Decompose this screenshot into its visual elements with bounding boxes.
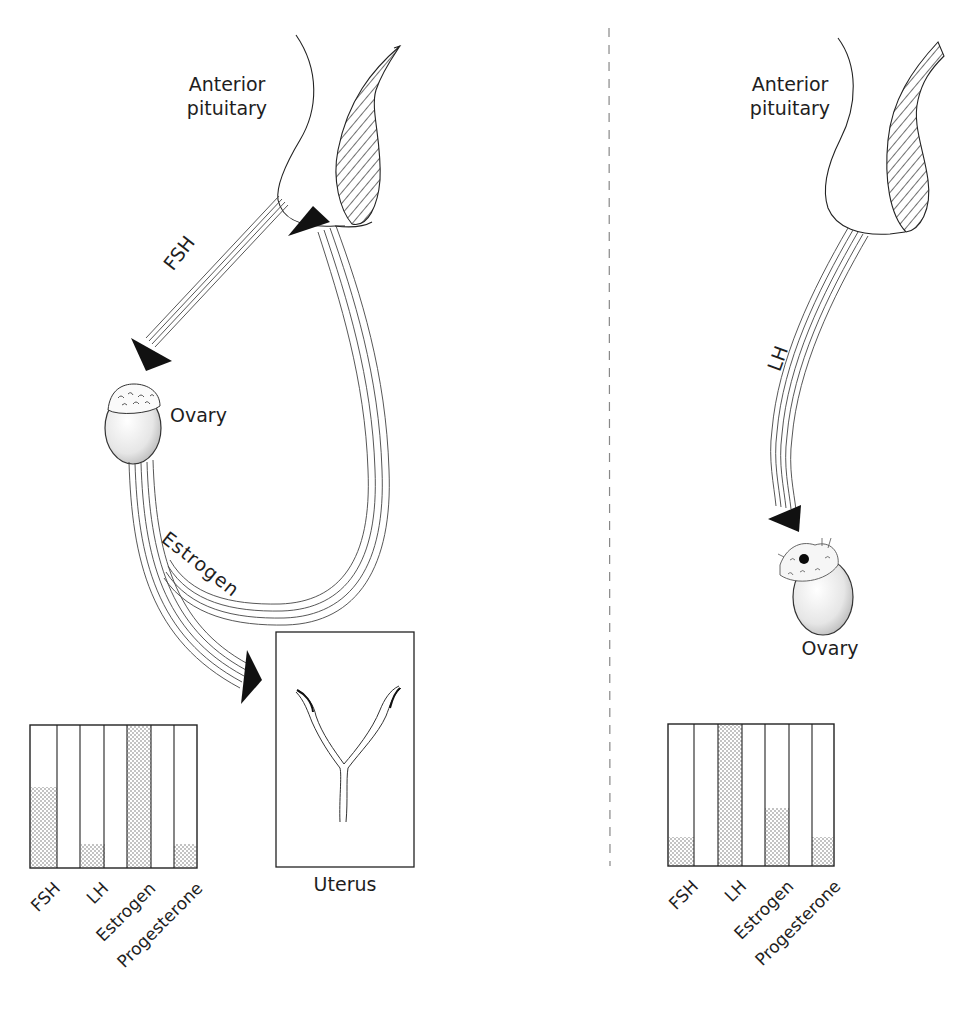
bar-fsh (669, 837, 694, 865)
anterior-pituitary-right (825, 38, 944, 234)
diagram-canvas: Anterior pituitary FSH Ovary Estrogen Ut… (0, 0, 966, 1024)
hormone-chart-left (30, 725, 197, 868)
bar-lh (718, 725, 742, 865)
pituitary-label-right: Anterior pituitary (735, 72, 845, 120)
left-panel (30, 35, 414, 868)
lh-arrowhead (768, 505, 801, 532)
anterior-pituitary-left (278, 35, 400, 227)
hormone-chart-right (668, 724, 834, 866)
diagram-artwork (0, 0, 966, 1024)
ovary-label-right: Ovary (790, 636, 870, 660)
ovum-icon (799, 554, 809, 564)
uterus-figure (276, 632, 414, 867)
panel-divider (609, 28, 610, 866)
fsh-arrowhead (131, 338, 172, 371)
estrogen-uterus-arrowhead (241, 650, 262, 704)
ovary-right (778, 538, 853, 635)
fsh-arrow (146, 196, 288, 347)
bar-progesterone (174, 844, 196, 867)
ovary-left (105, 384, 161, 464)
uterus-label: Uterus (276, 872, 414, 896)
pituitary-label-line1: Anterior (172, 72, 282, 96)
bar-lh (81, 844, 105, 867)
right-panel (668, 38, 944, 866)
bar-progesterone (812, 837, 833, 865)
pituitary-label-line2: pituitary (735, 96, 845, 120)
ovary-label-left: Ovary (170, 403, 227, 427)
estrogen-feedback-arrowhead (288, 206, 330, 236)
bar-estrogen (765, 808, 789, 865)
bar-estrogen (127, 726, 151, 867)
pituitary-label-left: Anterior pituitary (172, 72, 282, 120)
pituitary-label-line1: Anterior (735, 72, 845, 96)
bar-fsh (31, 787, 57, 867)
pituitary-label-line2: pituitary (172, 96, 282, 120)
